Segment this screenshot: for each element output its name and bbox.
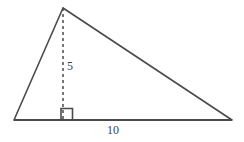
height-label: 5 xyxy=(67,59,73,73)
base-label: 10 xyxy=(107,123,119,137)
triangle-left-edge xyxy=(14,8,63,120)
triangle-diagram-svg: 5 10 xyxy=(0,0,244,142)
geometry-figure: 5 10 xyxy=(0,0,244,142)
triangle-hypotenuse-edge xyxy=(63,8,232,120)
